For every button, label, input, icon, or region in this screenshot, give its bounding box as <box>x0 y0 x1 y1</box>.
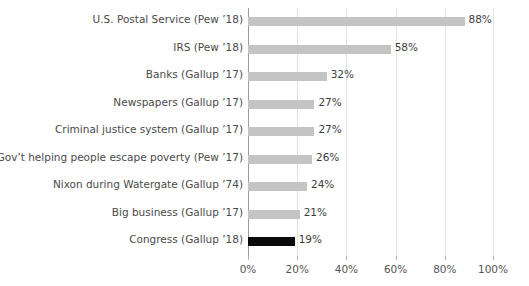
x-tick <box>493 256 494 260</box>
bar <box>248 45 391 54</box>
x-tick <box>346 256 347 260</box>
value-label: 24% <box>311 177 334 191</box>
x-tick <box>297 256 298 260</box>
bar-row: Big business (Gallup ’17) 21% <box>248 201 494 229</box>
category-label: Congress (Gallup ’18) <box>129 232 243 246</box>
value-label: 88% <box>469 12 492 26</box>
value-label: 21% <box>304 205 327 219</box>
category-label: IRS (Pew ’18) <box>173 40 243 54</box>
category-label: Banks (Gallup ’17) <box>146 67 243 81</box>
bar-chart: U.S. Postal Service (Pew ’18) 88% IRS (P… <box>0 0 529 286</box>
bar-highlighted <box>248 237 295 246</box>
value-label: 32% <box>331 67 354 81</box>
value-label: 27% <box>318 122 341 136</box>
bar <box>248 127 314 136</box>
bar-row: U.S. Postal Service (Pew ’18) 88% <box>248 8 494 36</box>
bar <box>248 72 327 81</box>
bar-row: Gov’t helping people escape poverty (Pew… <box>248 146 494 174</box>
value-label: 58% <box>395 40 418 54</box>
x-tick-label: 20% <box>286 263 309 275</box>
bar-row: IRS (Pew ’18) 58% <box>248 36 494 64</box>
bar-row: Nixon during Watergate (Gallup ’74) 24% <box>248 173 494 201</box>
x-tick <box>396 256 397 260</box>
bar-row: Banks (Gallup ’17) 32% <box>248 63 494 91</box>
bar-row: Criminal justice system (Gallup ’17) 27% <box>248 118 494 146</box>
bar-row: Congress (Gallup ’18) 19% <box>248 228 494 256</box>
value-label: 27% <box>318 95 341 109</box>
bar <box>248 17 465 26</box>
bar-row: Newspapers (Gallup ’17) 27% <box>248 91 494 119</box>
plot-area: U.S. Postal Service (Pew ’18) 88% IRS (P… <box>248 8 494 256</box>
bar <box>248 182 307 191</box>
x-tick-label: 40% <box>335 263 358 275</box>
category-label: U.S. Postal Service (Pew ’18) <box>93 12 243 26</box>
value-label: 26% <box>316 150 339 164</box>
x-tick-label: 0% <box>240 263 257 275</box>
category-label: Newspapers (Gallup ’17) <box>113 95 243 109</box>
bar <box>248 100 314 109</box>
x-tick-label: 80% <box>433 263 456 275</box>
bar <box>248 210 300 219</box>
value-label: 19% <box>299 232 322 246</box>
category-label: Gov’t helping people escape poverty (Pew… <box>0 150 243 164</box>
x-tick <box>248 256 249 260</box>
x-tick-label: 100% <box>478 263 508 275</box>
x-axis: 0% 20% 40% 60% 80% 100% <box>248 256 494 286</box>
category-label: Nixon during Watergate (Gallup ’74) <box>53 177 243 191</box>
bar <box>248 155 312 164</box>
x-tick-label: 60% <box>384 263 407 275</box>
x-tick <box>445 256 446 260</box>
category-label: Criminal justice system (Gallup ’17) <box>55 122 243 136</box>
category-label: Big business (Gallup ’17) <box>112 205 243 219</box>
